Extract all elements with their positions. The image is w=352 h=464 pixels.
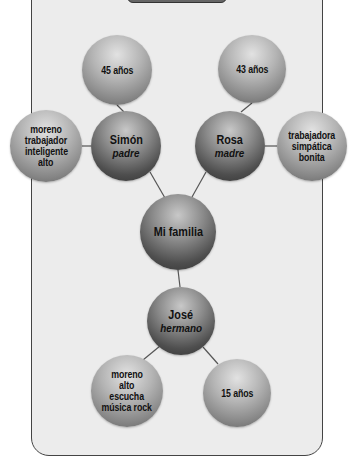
simon-age-node: 45 años bbox=[82, 35, 152, 105]
simon-name: Simón bbox=[109, 134, 142, 147]
rosa-trait: trabajadora bbox=[289, 130, 336, 141]
simon-trait: moreno bbox=[30, 124, 62, 135]
jose-trait: alto bbox=[119, 380, 134, 391]
simon-role: padre bbox=[113, 147, 140, 159]
rosa-name: Rosa bbox=[217, 134, 243, 147]
rosa-age-node: 43 años bbox=[218, 35, 286, 103]
rosa-trait: simpática bbox=[292, 141, 332, 152]
jose-age-node: 15 años bbox=[203, 359, 271, 427]
jose-age: 15 años bbox=[221, 388, 253, 399]
jose-role: hermano bbox=[160, 322, 202, 334]
rosa-traits-node: trabajadora simpática bonita bbox=[277, 111, 347, 181]
simon-age: 45 años bbox=[101, 65, 133, 76]
center-node: Mi familia bbox=[140, 194, 216, 270]
jose-traits-node: moreno alto escucha música rock bbox=[91, 355, 163, 427]
simon-trait: trabajador bbox=[25, 135, 67, 146]
jose-name: José bbox=[169, 309, 194, 322]
rosa-node: Rosa madre bbox=[195, 111, 265, 181]
center-label: Mi familia bbox=[153, 225, 202, 239]
rosa-role: madre bbox=[215, 147, 245, 159]
jose-node: José hermano bbox=[147, 287, 215, 355]
simon-traits-node: moreno trabajador inteligente alto bbox=[10, 110, 82, 182]
rosa-age: 43 años bbox=[236, 64, 268, 75]
simon-trait: inteligente bbox=[24, 146, 67, 157]
jose-trait: escucha bbox=[110, 391, 145, 402]
rosa-trait: bonita bbox=[299, 152, 325, 163]
simon-trait: alto bbox=[38, 157, 53, 168]
jose-trait: música rock bbox=[102, 402, 152, 413]
jose-trait: moreno bbox=[111, 369, 143, 380]
simon-node: Simón padre bbox=[91, 111, 161, 181]
